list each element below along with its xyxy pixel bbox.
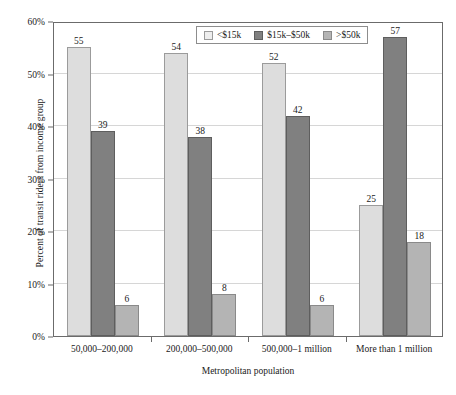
x-tick-label: 200,000–500,000 <box>166 344 233 354</box>
x-tick-label: 50,000–200,000 <box>71 344 133 354</box>
bar[interactable]: 38 <box>188 137 212 337</box>
bar-value-label: 54 <box>172 42 182 53</box>
legend-label: >$50k <box>336 30 360 40</box>
bar[interactable]: 57 <box>383 37 407 336</box>
x-tick-label: 500,000–1 million <box>262 344 332 354</box>
y-axis-ticks: 0%10%20%30%40%50%60% <box>0 22 53 337</box>
x-axis-labels: 50,000–200,000200,000–500,000500,000–1 m… <box>53 344 443 360</box>
legend-label: $15k–$50k <box>267 30 310 40</box>
y-tick-label: 0% <box>32 332 45 342</box>
bar[interactable]: 55 <box>67 47 91 336</box>
bar[interactable]: 6 <box>310 305 334 337</box>
legend-swatch-icon <box>254 31 263 40</box>
bar-value-label: 6 <box>319 294 324 305</box>
legend-item[interactable]: $15k–$50k <box>254 30 310 40</box>
bar[interactable]: 52 <box>262 63 286 336</box>
legend-item[interactable]: <$15k <box>204 30 241 40</box>
y-tick-label: 60% <box>28 17 45 27</box>
bar-value-label: 57 <box>391 26 401 37</box>
legend-swatch-icon <box>323 31 332 40</box>
bar[interactable]: 8 <box>212 294 236 336</box>
legend-label: <$15k <box>217 30 241 40</box>
bar[interactable]: 25 <box>359 205 383 336</box>
y-tick-label: 30% <box>28 175 45 185</box>
y-tick-label: 20% <box>28 227 45 237</box>
x-tick-mark <box>248 337 249 342</box>
plot-area: 553965438852426255718 <box>53 22 443 337</box>
bar-group: 55396 <box>54 23 152 336</box>
bar[interactable]: 54 <box>164 53 188 337</box>
bar-value-label: 25 <box>367 194 377 205</box>
bar-value-label: 39 <box>98 120 108 131</box>
bar-value-label: 18 <box>415 231 425 242</box>
bar-chart: Percent of transit riders from income gr… <box>0 0 456 395</box>
bars-layer: 553965438852426255718 <box>54 23 442 336</box>
bar-value-label: 38 <box>196 126 206 137</box>
bar-value-label: 6 <box>124 294 129 305</box>
x-tick-mark <box>346 337 347 342</box>
y-tick-label: 40% <box>28 122 45 132</box>
x-axis-title: Metropolitan population <box>53 366 443 376</box>
y-tick-label: 50% <box>28 70 45 80</box>
legend-swatch-icon <box>204 31 213 40</box>
bar-value-label: 55 <box>74 36 84 47</box>
legend: <$15k$15k–$50k>$50k <box>196 26 368 44</box>
bar-value-label: 52 <box>269 52 279 63</box>
bar-value-label: 42 <box>293 105 303 116</box>
x-tick-label: More than 1 million <box>356 344 432 354</box>
bar[interactable]: 6 <box>115 305 139 337</box>
bar-group: 54388 <box>152 23 250 336</box>
x-axis-ticks <box>53 337 443 343</box>
y-tick-label: 10% <box>28 280 45 290</box>
bar[interactable]: 39 <box>91 131 115 336</box>
legend-item[interactable]: >$50k <box>323 30 360 40</box>
bar[interactable]: 18 <box>407 242 431 337</box>
bar-group: 255718 <box>347 23 445 336</box>
bar[interactable]: 42 <box>286 116 310 337</box>
bar-group: 52426 <box>249 23 347 336</box>
bar-value-label: 8 <box>222 283 227 294</box>
x-tick-mark <box>151 337 152 342</box>
